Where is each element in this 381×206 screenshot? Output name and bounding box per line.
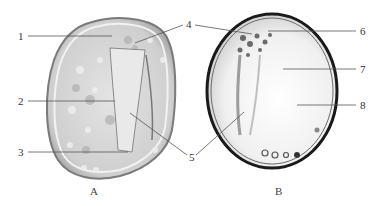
callout-8: 8 <box>360 100 366 111</box>
panel-label-a: A <box>90 185 98 197</box>
figure: 1 2 3 4 5 6 7 8 A B <box>0 0 381 206</box>
callout-4: 4 <box>186 19 192 30</box>
cell-b <box>207 14 337 168</box>
callout-1: 1 <box>18 31 24 42</box>
cell-a <box>47 18 175 178</box>
callout-5: 5 <box>189 152 195 163</box>
panel-label-b: B <box>275 185 282 197</box>
figure-caption-truncated <box>60 199 320 205</box>
callout-7: 7 <box>360 64 366 75</box>
callout-2: 2 <box>18 96 24 107</box>
callout-3: 3 <box>18 147 24 158</box>
callout-6: 6 <box>360 26 366 37</box>
